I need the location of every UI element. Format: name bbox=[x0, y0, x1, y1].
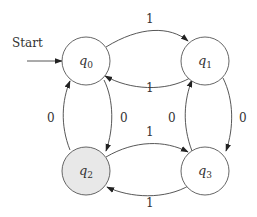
edge-q0-q2 bbox=[104, 80, 112, 151]
edge-q2-q3 bbox=[106, 144, 188, 157]
edge-label-q2-q0: 0 bbox=[47, 111, 55, 125]
edge-label-q1-q3: 0 bbox=[239, 111, 247, 125]
edge-q0-q1 bbox=[106, 30, 188, 47]
state-q3: q3 bbox=[181, 147, 229, 195]
edge-q2-q0 bbox=[63, 81, 70, 150]
start-label: Start bbox=[12, 36, 43, 50]
edge-label-q3-q2: 1 bbox=[146, 196, 154, 210]
edge-q3-q2 bbox=[107, 185, 190, 196]
edge-q3-q1 bbox=[185, 80, 192, 151]
state-q0: q0 bbox=[62, 37, 110, 85]
edge-label-q1-q0: 1 bbox=[146, 81, 154, 95]
state-q1: q1 bbox=[181, 37, 229, 85]
edge-label-q0-q1: 1 bbox=[146, 12, 154, 26]
edge-q1-q3 bbox=[223, 78, 232, 151]
edge-label-q3-q1: 0 bbox=[168, 111, 176, 125]
edge-label-q0-q2: 0 bbox=[120, 111, 128, 125]
state-diagram: Start 1 1 0 0 0 0 1 1 q0 q1 q2 q3 bbox=[0, 0, 257, 217]
state-q2-accepting: q2 bbox=[62, 147, 110, 195]
edge-label-q2-q3: 1 bbox=[146, 125, 154, 139]
